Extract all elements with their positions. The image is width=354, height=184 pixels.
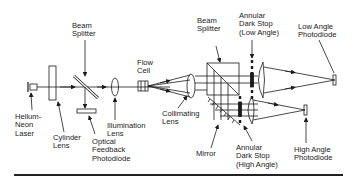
label-laser: Helium- Neon Laser <box>15 113 41 138</box>
cylinder-lens-icon <box>49 66 56 100</box>
flow-cell-icon <box>138 81 148 91</box>
laser-icon <box>28 82 37 92</box>
label-beam-splitter-2: Beam Splitter <box>197 17 221 34</box>
mirror-icon <box>208 97 240 125</box>
optical-diagram: Helium- Neon Laser Cylinder Lens Beam Sp… <box>0 0 354 184</box>
collimating-lens-icon <box>187 74 195 98</box>
label-flow-cell: Flow Cell <box>137 59 153 76</box>
label-illumination-lens: Illumination Lens <box>107 122 145 139</box>
label-high-angle-photodiode: High Angle Photodiode <box>294 146 332 163</box>
label-beam-splitter-1: Beam Splitter <box>72 22 96 39</box>
label-cylinder-lens: Cylinder Lens <box>53 134 81 151</box>
label-low-angle-photodiode: Low Angle Photodiode <box>298 23 336 40</box>
label-collimating-lens: Collimating Lens <box>162 110 200 127</box>
bottom-rule <box>14 174 343 176</box>
label-dark-stop-low: Annular Dark Stop (Low Angle) <box>239 12 279 37</box>
label-optical-feedback: Optical Feedback Photodiode <box>92 138 130 163</box>
feedback-photodiode-icon <box>77 109 96 113</box>
label-dark-stop-high: Annular Dark Stop (High Angle) <box>236 144 278 169</box>
label-mirror: Mirror <box>196 150 216 158</box>
